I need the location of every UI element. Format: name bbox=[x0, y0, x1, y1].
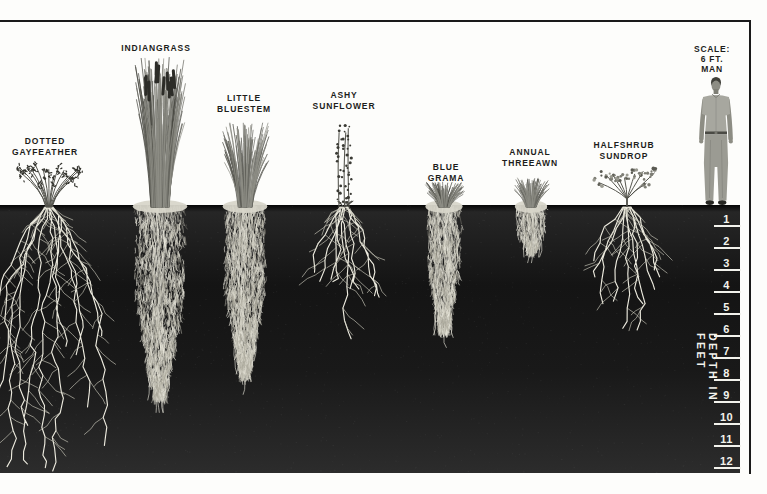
diagram-art bbox=[0, 0, 767, 494]
depth-tick-line bbox=[714, 225, 741, 227]
plant-label-ashy-sunflower: ASHYSUNFLOWER bbox=[269, 90, 419, 111]
plant-top-ashy-sunflower bbox=[335, 124, 353, 207]
depth-tick-number: 1 bbox=[714, 214, 739, 225]
plant-label-line: GAYFEATHER bbox=[0, 147, 120, 158]
plant-label-line: DOTTED bbox=[0, 136, 120, 147]
plant-annual-threeawn bbox=[516, 205, 548, 263]
plant-top-halfshrub-sundrop bbox=[592, 167, 657, 207]
depth-tick-line bbox=[714, 291, 741, 293]
depth-tick-line bbox=[714, 269, 741, 271]
plant-top-dotted-gayfeather bbox=[17, 162, 82, 207]
depth-tick-5: 5 bbox=[714, 300, 741, 315]
root-depth-diagram: DOTTEDGAYFEATHERINDIANGRASSLITTLEBLUESTE… bbox=[0, 0, 767, 494]
depth-tick-number: 12 bbox=[714, 456, 739, 467]
plant-label-line: SUNFLOWER bbox=[269, 101, 419, 112]
scale-label-line2: 6 FT. bbox=[677, 54, 747, 64]
plant-label-line: ASHY bbox=[269, 90, 419, 101]
plant-blue-grama bbox=[427, 205, 463, 348]
scale-label-line1: SCALE: bbox=[677, 44, 747, 54]
plant-label-indiangrass: INDIANGRASS bbox=[81, 43, 231, 54]
depth-tick-number: 4 bbox=[714, 280, 739, 291]
plant-top-little-bluestem bbox=[223, 123, 269, 207]
plant-top-indiangrass bbox=[135, 58, 185, 208]
plant-little-bluestem bbox=[223, 205, 266, 394]
depth-tick-1: 1 bbox=[714, 212, 741, 227]
plant-ashy-sunflower bbox=[299, 207, 386, 339]
depth-tick-number: 2 bbox=[714, 236, 739, 247]
plant-label-line: SUNDROP bbox=[549, 151, 699, 162]
plant-label-line: INDIANGRASS bbox=[81, 43, 231, 54]
depth-axis-label: DEPTH IN FEET bbox=[695, 333, 719, 443]
depth-tick-2: 2 bbox=[714, 234, 741, 249]
plant-label-line: HALFSHRUB bbox=[549, 140, 699, 151]
depth-tick-line bbox=[714, 313, 741, 315]
scale-label-line3: MAN bbox=[677, 64, 747, 74]
six-foot-man bbox=[699, 77, 733, 205]
aboveground-layer bbox=[17, 58, 733, 208]
scale-man-label: SCALE: 6 FT. MAN bbox=[677, 44, 747, 74]
depth-tick-number: 3 bbox=[714, 258, 739, 269]
underground-layer bbox=[0, 205, 741, 473]
plant-dotted-gayfeather bbox=[0, 207, 116, 471]
plant-label-dotted-gayfeather: DOTTEDGAYFEATHER bbox=[0, 136, 120, 157]
depth-tick-line bbox=[714, 247, 741, 249]
depth-tick-line bbox=[714, 445, 741, 447]
plant-label-line: GRAMA bbox=[371, 173, 521, 184]
plant-halfshrub-sundrop bbox=[584, 207, 672, 331]
depth-tick-line bbox=[714, 467, 741, 469]
depth-tick-12: 12 bbox=[714, 454, 741, 469]
depth-tick-4: 4 bbox=[714, 278, 741, 293]
plant-indiangrass bbox=[134, 205, 187, 412]
plant-label-halfshrub-sundrop: HALFSHRUBSUNDROP bbox=[549, 140, 699, 161]
depth-tick-3: 3 bbox=[714, 256, 741, 271]
depth-tick-number: 5 bbox=[714, 302, 739, 313]
